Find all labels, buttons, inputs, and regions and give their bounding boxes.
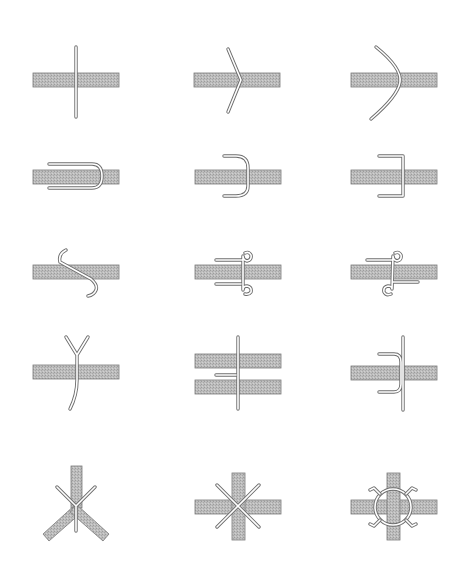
panel-three-way-junction (43, 466, 109, 541)
panel-curved-bend (351, 47, 437, 119)
panel-double-loop-same-side (195, 252, 281, 294)
panel-double-band-pin (195, 337, 281, 409)
band (351, 366, 437, 380)
band (33, 170, 119, 184)
panel-sharp-v-bend (194, 49, 280, 112)
panel-round-u-staple (195, 156, 281, 196)
panel-cross-junction-x-tie (195, 473, 281, 540)
panel-straight-pin (33, 47, 119, 117)
band-vertical (387, 473, 400, 540)
panel-s-hook (33, 250, 119, 296)
panel-double-loop-opposite-side (351, 252, 437, 294)
panel-round-u-hairpin (33, 164, 119, 188)
panel-cross-junction-ring-tie (351, 473, 437, 540)
band (351, 73, 437, 87)
band (351, 170, 437, 184)
panel-square-u-staple (351, 156, 437, 196)
tie-configurations-diagram (0, 0, 465, 569)
panel-y-split (33, 337, 119, 409)
band (195, 265, 281, 279)
band (194, 73, 280, 87)
band (195, 170, 281, 184)
panel-hooked-pin (351, 337, 437, 410)
